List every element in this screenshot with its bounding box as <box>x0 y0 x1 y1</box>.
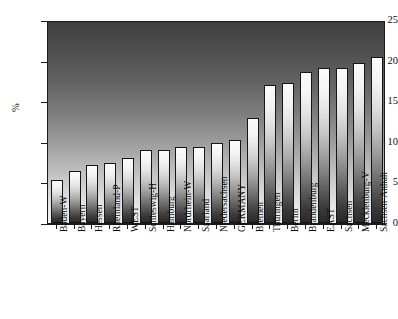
x-tick-label: Baden-W <box>60 196 70 232</box>
x-tick-label: Rheinland-P <box>113 185 123 233</box>
x-tick-label: Sachsen <box>345 201 355 232</box>
x-tick-mark <box>287 225 288 229</box>
x-tick-mark <box>91 225 92 229</box>
x-tick-mark <box>127 225 128 229</box>
bar <box>336 68 348 223</box>
x-tick-mark <box>252 225 253 229</box>
x-tick-label: Mecklenburg-V <box>362 171 372 232</box>
x-tick-label: Hessen <box>95 205 105 232</box>
x-tick-label: EAST <box>327 208 337 232</box>
bar <box>282 83 294 223</box>
x-tick-mark <box>269 225 270 229</box>
x-tick-mark <box>163 225 164 229</box>
x-tick-label: Schleswig-H <box>149 183 159 232</box>
x-tick-label: Niedersachsen <box>220 177 230 232</box>
chart-figure: % 0510152025 Baden-WBayernHessenRheinlan… <box>0 0 398 319</box>
y-axis-title: % <box>10 103 21 112</box>
x-tick-mark <box>198 225 199 229</box>
x-tick-label: Bayern <box>78 205 88 232</box>
x-tick-label: Nordrhein-W <box>184 181 194 232</box>
x-tick-label: GERMANY <box>238 184 248 232</box>
x-tick-mark <box>216 225 217 229</box>
x-tick-mark <box>341 225 342 229</box>
x-tick-mark <box>234 225 235 229</box>
x-tick-mark <box>358 225 359 229</box>
x-tick-mark <box>145 225 146 229</box>
x-tick-label: Saarland <box>202 199 212 232</box>
x-tick-label: Bremen <box>256 202 266 232</box>
x-tick-label: Brandenburg <box>309 183 319 232</box>
x-tick-label: Thüringen <box>273 192 283 232</box>
x-tick-mark <box>180 225 181 229</box>
x-tick-mark <box>74 225 75 229</box>
x-tick-mark <box>323 225 324 229</box>
x-tick-mark <box>305 225 306 229</box>
x-tick-mark <box>109 225 110 229</box>
x-tick-label: Berlin <box>291 208 301 232</box>
x-tick-label: Sachsen-Anhalt <box>380 172 390 232</box>
plot-area <box>47 21 385 224</box>
x-tick-mark <box>56 225 57 229</box>
x-tick-label: WEST <box>131 206 141 232</box>
x-tick-mark <box>376 225 377 229</box>
bar <box>318 68 330 223</box>
x-tick-label: Hamburg <box>167 196 177 232</box>
